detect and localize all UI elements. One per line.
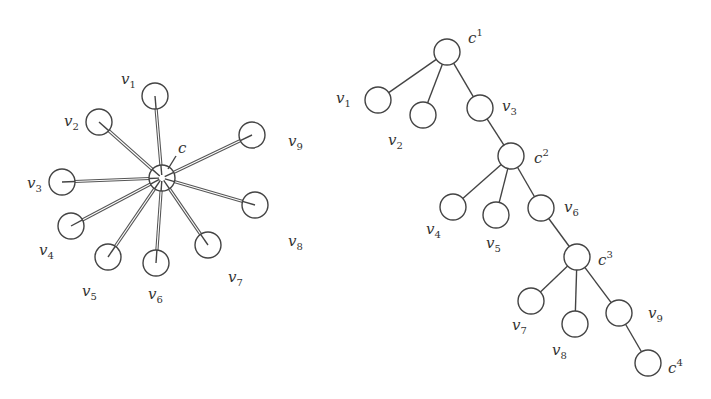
edge-v3-c2 — [487, 119, 504, 145]
tree-node-v4 — [440, 194, 466, 220]
tree-label-v9: v9 — [648, 304, 663, 324]
label-v6: v6 — [148, 285, 163, 305]
tree-node-v2 — [410, 102, 436, 128]
label-v3: v3 — [27, 174, 42, 194]
edge-c2-v5 — [499, 169, 508, 203]
tree-node-v1 — [365, 87, 391, 113]
tree-label-v7: v7 — [512, 316, 527, 336]
tree-label-c4: c4 — [668, 357, 683, 377]
tree-node-c4 — [635, 350, 661, 376]
tree-label-c2: c2 — [534, 147, 549, 167]
tree-node-c1 — [434, 39, 460, 65]
tree-label-v8: v8 — [552, 341, 567, 361]
tree-node-c3 — [564, 244, 590, 270]
tree-label-v5: v5 — [486, 234, 501, 254]
edge-v6-c3 — [549, 218, 570, 246]
edge-c3-v7 — [540, 266, 567, 292]
label-v9: v9 — [288, 132, 303, 152]
tree-label-c3: c3 — [598, 249, 613, 269]
label-v2: v2 — [64, 112, 79, 132]
edge-c1-v3 — [454, 63, 474, 97]
label-c: c — [178, 139, 187, 157]
edge-v9-c4 — [626, 324, 642, 352]
tree-node-c2 — [498, 143, 524, 169]
tree-label-v3: v3 — [502, 97, 517, 117]
label-v5: v5 — [82, 282, 97, 302]
tree-node-v8 — [562, 311, 588, 337]
label-v1: v1 — [121, 70, 136, 90]
tree-label-c1: c1 — [468, 27, 483, 47]
edge-c2-v4 — [463, 165, 501, 199]
pointer-arrow — [168, 156, 176, 169]
label-v7: v7 — [228, 268, 243, 288]
tree-node-v3 — [467, 95, 493, 121]
label-v8: v8 — [288, 232, 303, 252]
tree-node-v6 — [528, 195, 554, 221]
edge-c3-v8 — [575, 270, 576, 311]
tree-label-v2: v2 — [388, 131, 403, 151]
tree-label-v6: v6 — [564, 198, 579, 218]
edge-c3-v9 — [585, 267, 611, 302]
tree-node-v9 — [606, 300, 632, 326]
tree-node-v7 — [518, 288, 544, 314]
tree-graph: c1v1v2v3c2v4v5v6c3v7v8v9c4 — [336, 27, 683, 377]
edge-c1-v1 — [389, 59, 437, 92]
tree-node-v5 — [483, 202, 509, 228]
tree-label-v1: v1 — [336, 89, 351, 109]
label-v4: v4 — [39, 241, 54, 261]
edge-c2-v6 — [517, 167, 534, 196]
edge-c1-v2 — [428, 64, 443, 103]
graph-diagram: v1v2v3v4v5v6v7v8v9c c1v1v2v3c2v4v5v6c3v7… — [0, 0, 711, 399]
tree-label-v4: v4 — [426, 220, 441, 240]
star-graph: v1v2v3v4v5v6v7v8v9c — [27, 70, 303, 305]
